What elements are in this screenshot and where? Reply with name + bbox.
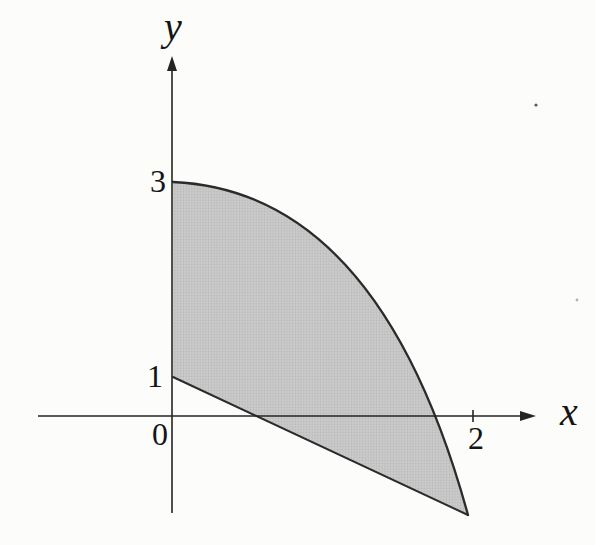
region-area-plot: y x 3 1 0 2	[0, 0, 595, 545]
shaded-region	[173, 182, 468, 515]
origin-label: 0	[152, 416, 168, 452]
figure-page: y x 3 1 0 2	[0, 0, 595, 545]
scan-artifacts	[534, 103, 578, 301]
scan-speck-icon	[576, 299, 579, 302]
scan-speck-icon	[534, 103, 537, 106]
y-tick-label-3: 3	[150, 163, 166, 199]
y-axis-label: y	[160, 4, 182, 49]
x-axis-arrowhead-icon	[520, 411, 536, 421]
y-tick-label-1: 1	[147, 358, 163, 394]
y-axis-arrowhead-icon	[167, 56, 177, 71]
x-axis-label: x	[559, 389, 578, 434]
x-tick-label-2: 2	[468, 420, 484, 456]
